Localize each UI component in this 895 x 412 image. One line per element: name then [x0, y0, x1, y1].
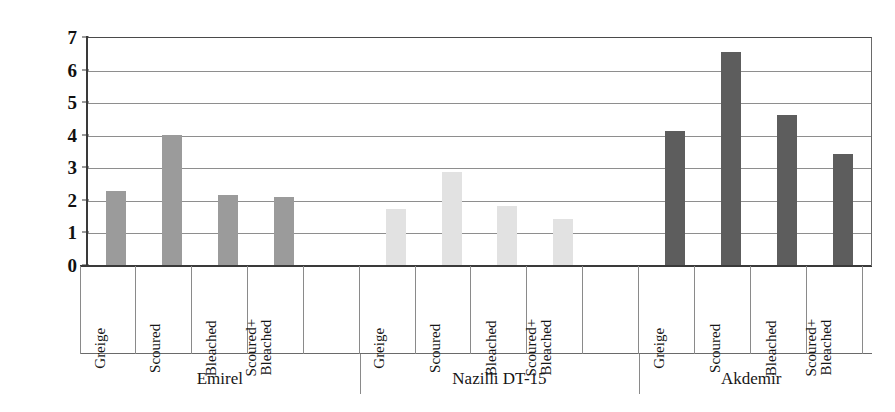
category-label-band: GreigeScouredBleachedScoured+ BleachedGr…: [80, 266, 872, 354]
group-label: Emirel: [197, 369, 243, 389]
category-cell: Scoured+ Bleached: [527, 266, 583, 354]
group-cell: Akdemir: [639, 354, 863, 404]
group-cell: Nazilli DT-15: [360, 354, 640, 404]
bar: [833, 154, 853, 265]
group-label-band: EmirelNazilli DT-15Akdemir: [80, 354, 872, 404]
category-cell: Scoured: [136, 266, 192, 354]
category-cell: Scoured: [416, 266, 472, 354]
y-axis-tick-labels: 01234567: [55, 28, 81, 282]
category-cell: Scoured+ Bleached: [248, 266, 304, 354]
y-tick-label: 3: [68, 158, 78, 177]
bars-layer: [88, 37, 871, 265]
group-cell: Emirel: [80, 354, 360, 404]
bar: [665, 131, 685, 265]
y-tick-label: 5: [68, 93, 78, 112]
category-cell: Scoured: [695, 266, 751, 354]
category-spacer-cell: [583, 266, 639, 354]
y-tick-label: 6: [68, 60, 78, 79]
category-cell: Bleached: [192, 266, 248, 354]
bar: [553, 219, 573, 265]
bar-chart: K/S (Color strength) 01234567 GreigeScou…: [0, 0, 895, 412]
y-tick-label: 4: [68, 125, 78, 144]
bar: [497, 206, 517, 265]
category-cell: Greige: [639, 266, 695, 354]
y-tick-label: 0: [68, 256, 78, 275]
category-cell: Greige: [80, 266, 136, 354]
group-label: Akdemir: [721, 369, 781, 389]
bar: [106, 191, 126, 265]
bar: [386, 209, 406, 265]
category-spacer-cell: [304, 266, 360, 354]
category-cell: Bleached: [751, 266, 807, 354]
y-tick-label: 7: [68, 28, 78, 47]
y-tick-label: 2: [68, 190, 78, 209]
bar: [777, 115, 797, 265]
y-tick-label: 1: [68, 223, 78, 242]
group-label: Nazilli DT-15: [452, 369, 546, 389]
bar: [274, 197, 294, 265]
category-cell: Bleached: [472, 266, 528, 354]
category-cell: Scoured+ Bleached: [807, 266, 863, 354]
bar: [721, 52, 741, 265]
bar: [162, 135, 182, 265]
bar: [218, 195, 238, 265]
category-cell: Greige: [360, 266, 416, 354]
bar: [442, 172, 462, 265]
